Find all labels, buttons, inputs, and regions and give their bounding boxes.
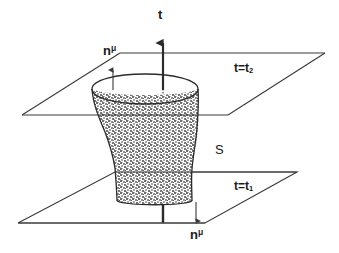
normal-upper-base: n: [103, 43, 111, 58]
upper-plane-label: t=t2: [234, 62, 253, 75]
lower-plane-label: t=t1: [234, 180, 253, 193]
surface-label: S: [215, 143, 224, 156]
tube-surface: [92, 74, 198, 205]
normal-vector-lower-label: nμ: [190, 228, 203, 241]
normal-upper-superscript: μ: [111, 43, 116, 53]
upper-plane-prefix: t=t: [234, 61, 249, 75]
diagram-canvas: [0, 0, 339, 253]
lower-plane-subscript: 1: [249, 184, 253, 193]
upper-plane-subscript: 2: [249, 66, 253, 75]
normal-vector-upper-label: nμ: [103, 44, 116, 57]
time-axis-label: t: [158, 8, 162, 21]
normal-lower-superscript: μ: [198, 227, 203, 237]
lower-plane-prefix: t=t: [234, 179, 249, 193]
normal-lower-base: n: [190, 227, 198, 242]
spacetime-tube-diagram: t nμ nμ t=t2 t=t1 S: [0, 0, 339, 253]
